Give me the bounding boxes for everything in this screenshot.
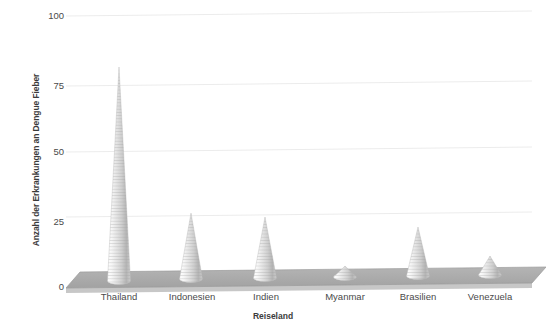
gridlines (66, 11, 532, 217)
cone-indien (254, 217, 277, 281)
y-tick-label-0: 0 (34, 281, 64, 292)
x-tick-label-indien: Indien (221, 291, 311, 302)
x-axis-title: Reiseland (0, 311, 546, 321)
cone-indonesien (180, 213, 203, 282)
cone-thailand (108, 67, 131, 284)
dengue-fever-cone-chart: Anzahl der Erkrankungen an Dengue Fieber… (0, 0, 546, 336)
y-tick-label-75: 75 (34, 80, 64, 91)
plot-area (66, 0, 546, 300)
x-tick-label-venezuela: Venezuela (445, 291, 535, 302)
cone-brasilien (407, 227, 430, 279)
y-tick-label-25: 25 (34, 216, 64, 227)
x-axis-tick-labels: Thailand Indonesien Indien Myanmar Brasi… (66, 291, 546, 311)
y-tick-label-50: 50 (34, 146, 64, 157)
y-axis-tick-labels: 100 75 50 25 0 (32, 0, 64, 336)
y-tick-label-100: 100 (34, 10, 64, 21)
floor-plane (66, 267, 546, 293)
